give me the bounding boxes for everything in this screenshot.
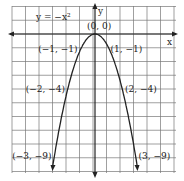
y-axis-down-arrow-icon <box>93 172 98 178</box>
curve-end-arrow-icon <box>50 165 55 171</box>
x-axis-right-arrow-icon <box>172 32 178 37</box>
curve-end-arrow-icon <box>135 165 140 171</box>
point-label: (2, −4) <box>125 84 157 94</box>
point-label: (0, 0) <box>87 21 111 31</box>
x-axis-left-arrow-icon <box>8 32 14 37</box>
point-label: (−3, −9) <box>12 151 51 161</box>
x-axis-label: x <box>167 37 172 47</box>
point-label: (3, −9) <box>139 151 171 161</box>
point-label: (1, −1) <box>111 44 143 54</box>
equation-label: y = −x² <box>35 12 71 22</box>
point-annotations: (0, 0)(−1, −1)(1, −1)(−2, −4)(2, −4)(−3,… <box>12 21 170 161</box>
parabola-chart: x y y = −x² (0, 0)(−1, −1)(1, −1)(−2, −4… <box>0 0 184 181</box>
point-label: (−2, −4) <box>26 84 65 94</box>
point-label: (−1, −1) <box>38 44 77 54</box>
y-axis-label: y <box>97 6 104 16</box>
